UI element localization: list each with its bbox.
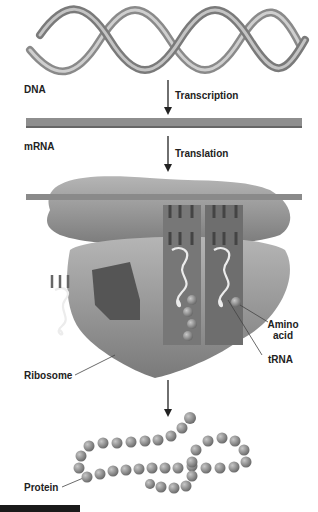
dna-label: DNA: [24, 84, 46, 95]
protein-label: Protein: [24, 482, 58, 493]
trna-site-2: [205, 205, 243, 345]
amino-acid-label: Amino acid: [266, 319, 300, 341]
translation-arrow-icon: [164, 136, 172, 172]
mrna-label: mRNA: [24, 141, 55, 152]
central-dogma-diagram: DNA Transcription mRNA Translation Amino…: [0, 0, 318, 512]
footer-bar: [0, 505, 80, 512]
dna-helix-icon: [30, 9, 305, 71]
transcription-arrow-icon: [164, 80, 172, 115]
translation-label: Translation: [175, 148, 228, 159]
trna-label: tRNA: [268, 354, 293, 365]
transcription-label: Transcription: [175, 90, 238, 101]
ribosome-label: Ribosome: [24, 370, 72, 381]
protein-arrow-icon: [164, 380, 172, 417]
diagram-graphics: [0, 0, 318, 512]
protein-chain-icon: [74, 412, 252, 494]
